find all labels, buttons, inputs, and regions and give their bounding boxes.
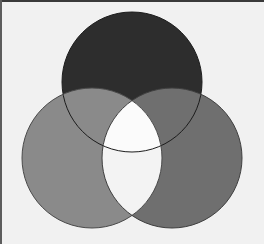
frame-top-rule	[0, 0, 264, 2]
venn-diagram-figure	[0, 0, 264, 244]
frame-left-rule	[0, 0, 2, 244]
venn-diagram-canvas	[0, 0, 264, 244]
